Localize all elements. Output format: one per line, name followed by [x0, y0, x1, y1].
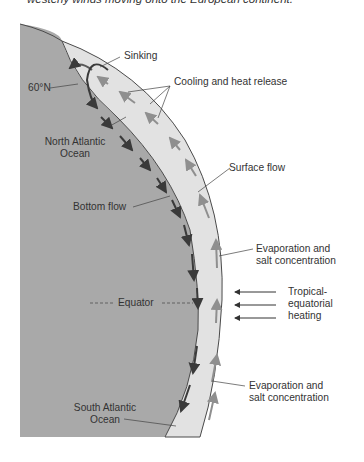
label-bottom-flow: Bottom flow — [73, 201, 126, 213]
label-equator: Equator — [118, 297, 154, 309]
label-north-atlantic: North Atlantic Ocean — [38, 136, 112, 160]
label-evaporation-south: Evaporation and salt concentration — [249, 380, 329, 404]
label-cooling-heat-release: Cooling and heat release — [174, 76, 287, 88]
label-evaporation-north: Evaporation and salt concentration — [256, 243, 336, 267]
label-60n: 60°N — [28, 82, 51, 94]
label-south-atlantic: South Atlantic Ocean — [66, 402, 144, 426]
label-sinking: Sinking — [124, 50, 157, 62]
label-surface-flow: Surface flow — [229, 162, 285, 174]
label-tropical-heating: Tropical- equatorial heating — [288, 286, 333, 322]
